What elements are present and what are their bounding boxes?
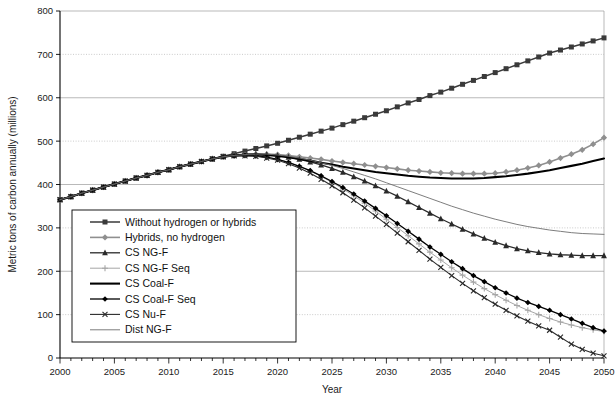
legend-entry-label: Dist NG-F — [125, 323, 172, 335]
marker-square — [536, 54, 541, 59]
chart-figure: 0100200300400500600700800200020052010201… — [0, 0, 616, 401]
marker-square — [482, 74, 487, 79]
marker-square — [471, 78, 476, 83]
x-axis-title: Year — [322, 384, 343, 395]
marker-square — [395, 104, 400, 109]
marker-square — [460, 82, 465, 87]
marker-square — [406, 100, 411, 105]
y-tick-label: 100 — [37, 309, 53, 320]
marker-square — [297, 135, 302, 140]
marker-square — [558, 48, 563, 53]
legend-entry-label: CS Coal-F Seq — [125, 293, 196, 305]
x-tick-label: 2020 — [267, 366, 288, 377]
chart-legend: Without hydrogen or hybridsHybrids, no h… — [72, 210, 296, 342]
legend-entry-label: CS NG-F Seq — [125, 262, 190, 274]
legend-entry-label: CS NG-F — [125, 246, 168, 258]
y-tick-label: 0 — [48, 352, 53, 363]
legend-box — [72, 210, 296, 342]
marker-square — [569, 45, 574, 50]
y-tick-label: 300 — [37, 222, 53, 233]
marker-square — [103, 220, 108, 225]
legend-entry-label: CS Nu-F — [125, 308, 166, 320]
x-tick-label: 2050 — [593, 366, 614, 377]
legend-entry-label: Without hydrogen or hybrids — [125, 216, 256, 228]
x-tick-label: 2005 — [104, 366, 125, 377]
marker-square — [264, 143, 269, 148]
marker-square — [514, 62, 519, 67]
marker-square — [602, 35, 607, 40]
x-tick-label: 2040 — [485, 366, 506, 377]
marker-square — [362, 115, 367, 120]
marker-square — [275, 141, 280, 146]
marker-square — [351, 119, 356, 124]
y-tick-label: 800 — [37, 5, 53, 16]
marker-square — [373, 112, 378, 117]
x-tick-label: 2015 — [213, 366, 234, 377]
marker-square — [449, 86, 454, 91]
marker-square — [330, 126, 335, 131]
emissions-line-chart: 0100200300400500600700800200020052010201… — [0, 0, 616, 401]
x-tick-label: 2010 — [158, 366, 179, 377]
marker-square — [547, 51, 552, 56]
y-tick-label: 500 — [37, 136, 53, 147]
marker-square — [525, 58, 530, 63]
y-tick-label: 600 — [37, 92, 53, 103]
legend-swatch-marker — [103, 220, 108, 225]
y-tick-label: 400 — [37, 179, 53, 190]
x-tick-label: 2045 — [539, 366, 560, 377]
marker-square — [286, 138, 291, 143]
x-tick-label: 2035 — [430, 366, 451, 377]
y-axis-title: Metric tons of carbon annually (millions… — [7, 96, 18, 272]
marker-square — [384, 108, 389, 113]
y-tick-label: 700 — [37, 49, 53, 60]
x-tick-label: 2030 — [376, 366, 397, 377]
marker-square — [438, 90, 443, 95]
x-tick-label: 2000 — [49, 366, 70, 377]
marker-square — [427, 93, 432, 98]
marker-square — [504, 66, 509, 71]
legend-entry-label: Hybrids, no hydrogen — [125, 231, 225, 243]
legend-entry-label: CS Coal-F — [125, 277, 174, 289]
marker-square — [417, 97, 422, 102]
x-tick-label: 2025 — [321, 366, 342, 377]
marker-square — [308, 132, 313, 137]
y-tick-label: 200 — [37, 266, 53, 277]
marker-square — [580, 41, 585, 46]
marker-square — [319, 129, 324, 134]
marker-square — [253, 146, 258, 151]
marker-square — [493, 70, 498, 75]
marker-square — [591, 38, 596, 43]
marker-square — [340, 122, 345, 127]
